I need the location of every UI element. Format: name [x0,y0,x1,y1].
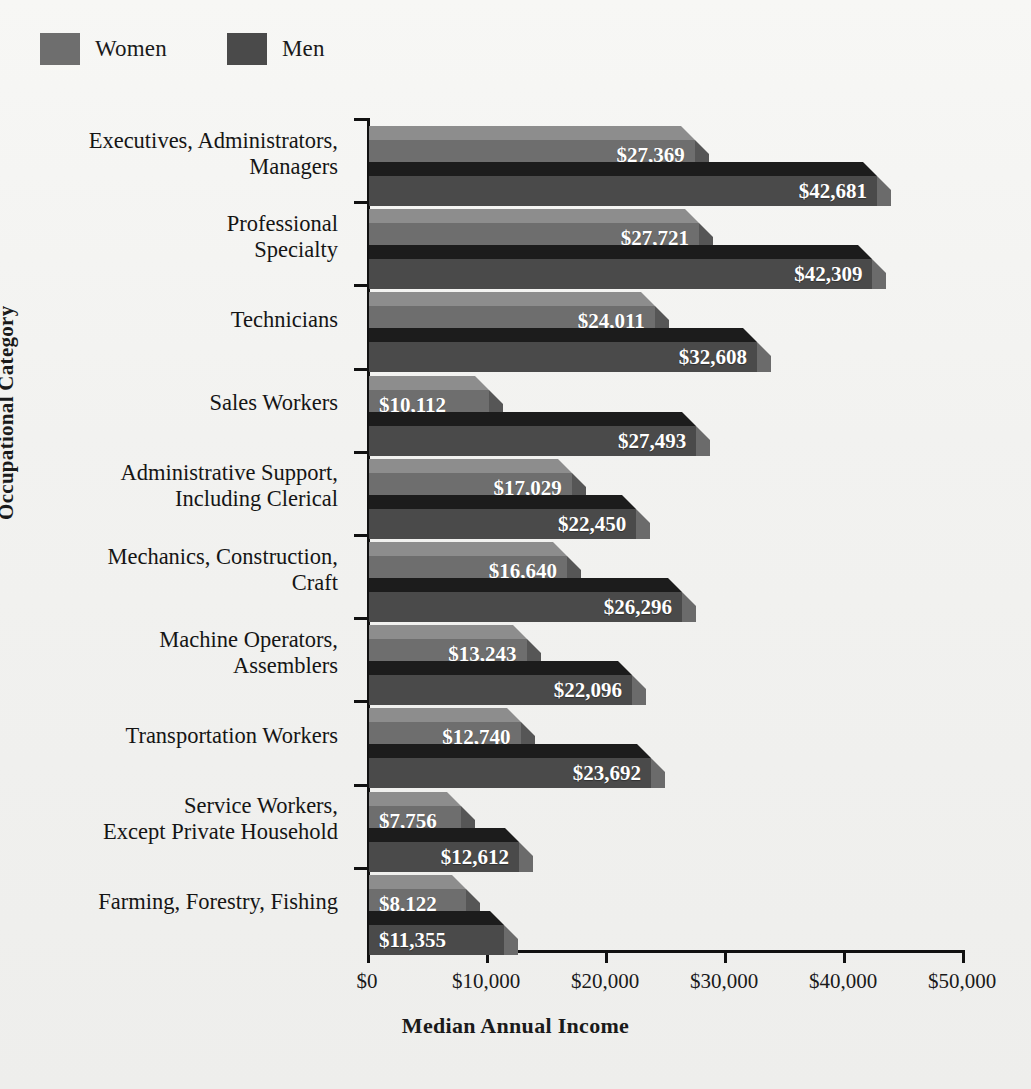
bar-top-face [369,875,466,889]
bar-side-face [682,592,696,622]
bar-men[interactable]: $32,608 [369,342,757,372]
x-axis-tick [962,950,965,963]
y-axis-tick [354,284,368,287]
bar-top-face [369,245,872,259]
bar-side-face [872,259,886,289]
x-axis-tick-label: $10,000 [452,969,520,994]
x-axis-tick [605,950,608,963]
y-axis-tick [354,617,368,620]
bar-men[interactable]: $27,493 [369,426,696,456]
y-axis-category-label: Machine Operators, Assemblers [0,627,338,679]
y-axis-category-label: Sales Workers [0,390,338,416]
y-axis-tick [354,368,368,371]
plot-area: $0$10,000$20,000$30,000$40,000$50,000$27… [367,118,962,950]
bar-men[interactable]: $42,681 [369,176,877,206]
bar-side-face [632,675,646,705]
y-axis-tick-labels: Executives, Administrators, ManagersProf… [0,118,352,950]
x-axis-tick [843,950,846,963]
bar-value-label: $22,096 [554,678,622,703]
bar-men[interactable]: $22,096 [369,675,632,705]
bar-value-label: $23,692 [573,761,641,786]
y-axis-category-label: Transportation Workers [0,723,338,749]
bar-value-label: $11,355 [379,927,446,952]
bar-top-face [369,328,757,342]
legend-item-men[interactable]: Men [227,33,325,65]
y-axis-category-label: Administrative Support, Including Cleric… [0,460,338,512]
y-axis-tick [354,451,368,454]
bar-value-label: $22,450 [558,511,626,536]
bar-top-face [369,625,527,639]
legend-swatch-men [227,33,267,65]
bar-top-face [369,542,567,556]
x-axis-tick-label: $20,000 [571,969,639,994]
bar-top-face [369,459,572,473]
y-axis-tick [354,700,368,703]
bar-top-face [369,911,504,925]
bar-value-label: $27,493 [618,428,686,453]
x-axis-tick [724,950,727,963]
x-axis-tick-label: $0 [357,969,378,994]
y-axis-category-label: Professional Specialty [0,211,338,263]
bar-top-face [369,162,877,176]
bar-men[interactable]: $23,692 [369,758,651,788]
y-axis-tick [354,201,368,204]
legend-swatch-women [40,33,80,65]
bar-value-label: $42,309 [794,262,862,287]
bar-top-face [369,209,699,223]
x-axis-tick-label: $50,000 [928,969,996,994]
bar-top-face [369,495,636,509]
bar-top-face [369,126,695,140]
y-axis-tick [354,867,368,870]
bar-side-face [757,342,771,372]
bar-men[interactable]: $26,296 [369,592,682,622]
bar-top-face [369,792,461,806]
y-axis-category-label: Farming, Forestry, Fishing [0,889,338,915]
bar-top-face [369,744,651,758]
bar-men[interactable]: $11,355 [369,925,504,955]
bar-side-face [504,925,518,955]
x-axis-title: Median Annual Income [0,1013,1031,1039]
bar-top-face [369,376,489,390]
y-axis-tick [354,784,368,787]
legend-label-women: Women [95,36,167,62]
bar-chart: Women Men Occupational Category Executiv… [0,0,1031,1089]
bar-top-face [369,708,521,722]
bar-top-face [369,661,632,675]
y-axis-tick [354,118,368,121]
legend-item-women[interactable]: Women [40,33,167,65]
y-axis-category-label: Mechanics, Construction, Craft [0,544,338,596]
bar-side-face [696,426,710,456]
bar-top-face [369,828,519,842]
bar-value-label: $26,296 [604,595,672,620]
y-axis-category-label: Executives, Administrators, Managers [0,128,338,180]
bar-top-face [369,412,696,426]
chart-legend: Women Men [40,33,325,65]
bar-men[interactable]: $12,612 [369,842,519,872]
bar-side-face [636,509,650,539]
y-axis-category-label: Technicians [0,307,338,333]
bar-men[interactable]: $42,309 [369,259,872,289]
y-axis-tick [354,534,368,537]
bar-value-label: $12,612 [441,844,509,869]
bar-men[interactable]: $22,450 [369,509,636,539]
bar-side-face [651,758,665,788]
bar-value-label: $32,608 [679,345,747,370]
bar-top-face [369,578,682,592]
x-axis-tick-label: $40,000 [809,969,877,994]
y-axis-category-label: Service Workers, Except Private Househol… [0,793,338,845]
bar-side-face [519,842,533,872]
bar-side-face [877,176,891,206]
bar-top-face [369,292,655,306]
bar-value-label: $42,681 [799,179,867,204]
x-axis-tick-label: $30,000 [690,969,758,994]
legend-label-men: Men [282,36,325,62]
